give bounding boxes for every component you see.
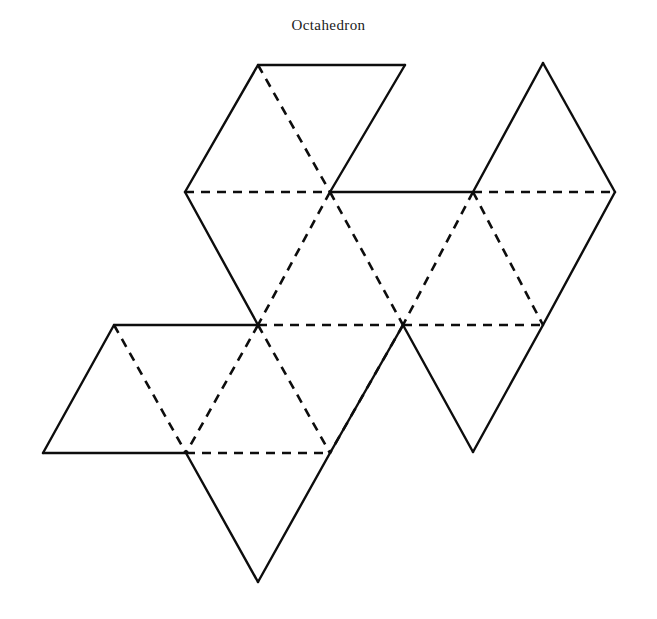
fold-edge [403,192,473,325]
cut-edge [185,192,258,325]
cut-edge [473,63,543,192]
net-face [330,192,473,325]
fold-edge [258,325,330,453]
net-face [186,453,330,582]
cut-edge [473,325,543,452]
net-face [403,325,543,452]
net-face [114,325,258,453]
cut-edge [330,325,403,453]
cut-edge [543,63,615,192]
fold-edge [473,192,543,325]
net-face [330,325,473,453]
cut-edge [258,453,330,582]
octahedron-net-diagram [0,0,657,619]
net-face [403,192,543,325]
net-face [186,325,330,453]
cut-edge [185,65,258,192]
net-face [258,325,403,453]
net-face [473,192,615,325]
net-face [258,65,405,192]
cut-edge [43,325,114,453]
fold-edge [186,325,258,453]
net-face [258,192,403,325]
cut-edge [330,65,405,192]
net-face [185,192,330,325]
figure-root: Octahedron [0,0,657,619]
fold-edge [258,192,330,325]
net-face [185,65,330,192]
cut-edges-solid [43,63,615,582]
net-face [43,325,186,453]
cut-edge [543,192,615,325]
fold-edge [114,325,186,453]
cut-edge [186,453,258,582]
cut-edge [403,325,473,452]
fold-edge [258,65,330,192]
fold-edge [330,192,403,325]
net-face-regions [43,63,615,582]
net-face [473,63,615,192]
